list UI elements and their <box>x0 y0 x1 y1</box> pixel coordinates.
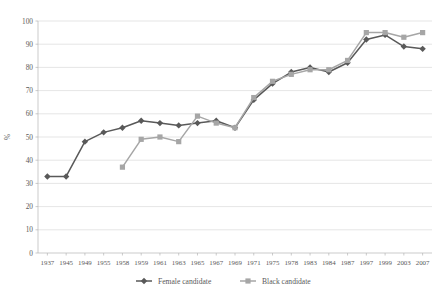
x-tick-label: 1963 <box>172 259 186 266</box>
x-tick-label: 1983 <box>303 259 317 266</box>
data-point-marker <box>139 137 144 142</box>
legend-item[interactable]: Black candidate <box>240 277 311 286</box>
x-tick-label: 1937 <box>40 259 54 266</box>
x-tick-label: 1958 <box>116 259 130 266</box>
x-tick-label: 1965 <box>191 259 205 266</box>
x-tick-label: 1961 <box>153 259 167 266</box>
data-point-marker <box>100 129 106 135</box>
series-line <box>47 35 422 177</box>
data-point-marker <box>420 30 425 35</box>
series-group <box>44 30 426 180</box>
legend-label: Black candidate <box>262 277 311 286</box>
data-point-marker <box>419 46 425 52</box>
data-point-marker <box>214 120 219 125</box>
x-axis-tick-labels: 1937194519491955195819591961196319651967… <box>40 259 430 266</box>
data-point-marker <box>232 125 237 130</box>
data-point-marker <box>289 72 294 77</box>
data-point-marker <box>194 120 200 126</box>
series-female-candidate <box>44 32 426 180</box>
x-tick-label: 1945 <box>59 259 73 266</box>
legend-label: Female candidate <box>158 277 212 286</box>
y-axis-tick-marks <box>36 21 39 253</box>
y-tick-label: 80 <box>26 63 34 72</box>
data-point-marker <box>382 30 387 35</box>
data-point-marker <box>195 114 200 119</box>
data-point-marker <box>307 67 312 72</box>
legend-swatch-marker <box>245 278 250 283</box>
data-point-marker <box>270 79 275 84</box>
data-point-marker <box>157 120 163 126</box>
line-chart-figure: 0102030405060708090100 19371945194919551… <box>0 0 444 295</box>
x-tick-label: 1987 <box>341 259 355 266</box>
data-point-marker <box>364 30 369 35</box>
data-point-marker <box>120 165 125 170</box>
x-axis-tick-marks <box>47 253 422 256</box>
data-point-marker <box>251 95 256 100</box>
y-tick-label: 60 <box>26 109 34 118</box>
chart-legend: Female candidateBlack candidate <box>136 277 311 286</box>
x-tick-label: 1949 <box>78 259 92 266</box>
series-black-candidate <box>120 30 425 170</box>
y-tick-label: 40 <box>26 156 34 165</box>
legend-item[interactable]: Female candidate <box>136 277 212 286</box>
data-point-marker <box>138 118 144 124</box>
y-tick-label: 90 <box>26 40 34 49</box>
chart-canvas: 0102030405060708090100 19371945194919551… <box>0 0 444 295</box>
x-tick-label: 1999 <box>378 259 392 266</box>
y-tick-label: 100 <box>22 17 33 26</box>
x-tick-label: 2003 <box>397 259 411 266</box>
x-tick-label: 1984 <box>322 259 336 266</box>
y-tick-label: 70 <box>26 86 34 95</box>
y-tick-label: 50 <box>26 133 34 142</box>
series-line <box>122 33 422 168</box>
x-tick-label: 1967 <box>209 259 223 266</box>
y-axis-tick-labels: 0102030405060708090100 <box>22 17 33 258</box>
y-tick-label: 10 <box>26 225 34 234</box>
x-tick-label: 1955 <box>97 259 111 266</box>
x-tick-label: 1959 <box>134 259 148 266</box>
data-point-marker <box>345 58 350 63</box>
data-point-marker <box>63 173 69 179</box>
data-point-marker <box>119 125 125 131</box>
data-point-marker <box>44 173 50 179</box>
data-point-marker <box>176 122 182 128</box>
x-tick-label: 1969 <box>228 259 242 266</box>
data-point-marker <box>82 138 88 144</box>
x-tick-label: 1971 <box>247 259 261 266</box>
y-tick-label: 30 <box>26 179 34 188</box>
legend-swatch-marker <box>141 278 147 284</box>
data-point-marker <box>401 35 406 40</box>
x-tick-label: 1975 <box>266 259 280 266</box>
data-point-marker <box>176 139 181 144</box>
y-axis-title: % <box>3 134 12 140</box>
x-tick-label: 1997 <box>359 259 373 266</box>
data-point-marker <box>157 134 162 139</box>
x-tick-label: 1978 <box>284 259 298 266</box>
y-tick-label: 20 <box>26 202 34 211</box>
data-point-marker <box>326 67 331 72</box>
y-tick-label: 0 <box>29 249 33 258</box>
x-tick-label: 2007 <box>416 259 430 266</box>
